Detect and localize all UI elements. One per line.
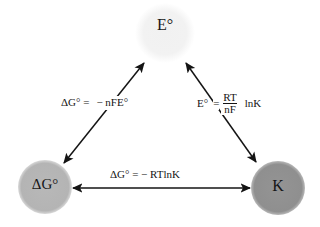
edge-label-right-equals: = [213,97,219,111]
edge-label-right-lhs: E° [197,97,208,111]
fraction-denominator: nF [223,103,237,115]
edge-arrow-gibbs-to-potential [64,63,144,163]
relationship-diagram: E° ΔG° K ΔG° =− nFE° E°= RT nF lnK ΔG° =… [0,0,320,227]
node-label-standard-cell-potential: E° [135,17,195,33]
edge-label-right-fraction: RT nF [221,92,238,115]
node-label-standard-gibbs-energy: ΔG° [15,177,75,192]
edge-label-left-lhs: ΔG° [61,96,80,108]
edge-label-potential-constant: E°= RT nF lnK [197,92,261,115]
edge-label-left-rhs: − nFE° [96,96,128,108]
edge-label-left-equals: = [83,96,89,108]
fraction-numerator: RT [222,92,237,103]
node-label-equilibrium-constant: K [249,178,307,194]
node-circle-standard-cell-potential [135,3,195,63]
edge-label-gibbs-constant: ΔG° = − RTlnK [108,168,182,182]
edge-label-gibbs-potential: ΔG° =− nFE° [61,96,128,110]
edge-label-right-trailing: lnK [245,97,262,111]
